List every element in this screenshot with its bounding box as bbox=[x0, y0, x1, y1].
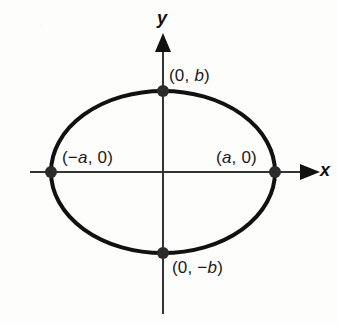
x-axis-label: x bbox=[320, 160, 330, 181]
y-axis-label: y bbox=[157, 8, 167, 29]
x-axis-arrowhead-icon bbox=[300, 164, 320, 180]
vertex-marker-left bbox=[45, 166, 57, 178]
ellipse-figure: y x (0, b) (0, −b) (−a, 0) (a, 0) bbox=[0, 0, 338, 323]
vertex-marker-right bbox=[269, 166, 281, 178]
vertex-marker-top bbox=[157, 85, 169, 97]
bottom-vertex-label: (0, −b) bbox=[172, 258, 223, 278]
vertex-marker-bottom bbox=[157, 247, 169, 259]
left-vertex-label: (−a, 0) bbox=[62, 148, 113, 168]
y-axis-arrowhead-icon bbox=[155, 33, 171, 52]
top-vertex-label: (0, b) bbox=[169, 66, 210, 86]
ellipse-diagram-canvas bbox=[0, 0, 338, 323]
right-vertex-label: (a, 0) bbox=[216, 148, 257, 168]
